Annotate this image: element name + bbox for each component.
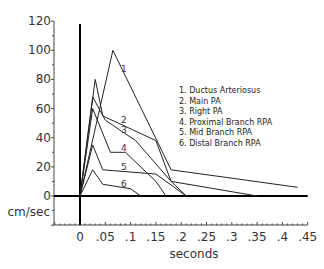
- x-tick-label: .25: [197, 230, 216, 244]
- x-tick-label: .15: [146, 230, 165, 244]
- legend-item: 2. Main PA: [179, 97, 221, 106]
- y-tick-label: 100: [28, 43, 51, 57]
- velocity-chart: 0204060801001200.05.1.15.2.25.3.35.4.45 …: [0, 0, 324, 269]
- curve-label-1: 1: [121, 64, 127, 74]
- axes: 0204060801001200.05.1.15.2.25.3.35.4.45: [28, 14, 317, 244]
- legend-item: 4. Proximal Branch RPA: [179, 118, 273, 127]
- x-tick-label: 0: [76, 230, 84, 244]
- legend-item: 5. Mid Branch RPA: [179, 128, 253, 137]
- y-tick-label: 20: [36, 160, 51, 174]
- x-tick-label: .3: [226, 230, 237, 244]
- legend: 1. Ductus Arteriosus2. Main PA3. Right P…: [179, 86, 273, 148]
- y-tick-label: 40: [36, 131, 51, 145]
- x-tick-label: .4: [277, 230, 288, 244]
- y-tick-label: 80: [36, 72, 51, 86]
- x-tick-label: .1: [125, 230, 136, 244]
- curve-label-2: 2: [121, 115, 127, 125]
- legend-item: 6. Distal Branch RPA: [179, 139, 261, 148]
- curve-6: [80, 170, 141, 196]
- legend-item: 3. Right PA: [179, 107, 223, 116]
- curve-5: [80, 145, 186, 196]
- curve-label-6: 6: [121, 179, 127, 189]
- curve-labels: 123456: [121, 64, 127, 189]
- x-tick-label: .35: [248, 230, 267, 244]
- x-tick-label: .45: [298, 230, 317, 244]
- y-axis-label: cm/sec: [7, 205, 50, 219]
- curve-label-3: 3: [121, 125, 127, 135]
- y-tick-label: 60: [36, 102, 51, 116]
- legend-item: 1. Ductus Arteriosus: [179, 86, 260, 95]
- curve-3: [80, 97, 186, 196]
- curve-label-5: 5: [121, 162, 127, 172]
- y-tick-label: 120: [28, 14, 51, 28]
- x-axis-label: seconds: [169, 247, 218, 261]
- x-tick-label: .05: [96, 230, 115, 244]
- y-tick-label: 0: [43, 189, 51, 203]
- x-tick-label: .2: [175, 230, 186, 244]
- curve-label-4: 4: [121, 143, 127, 153]
